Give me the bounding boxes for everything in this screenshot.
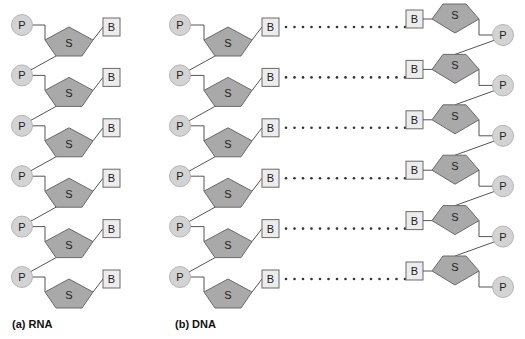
hydrogen-bond-dot (319, 177, 322, 180)
base-label: B (108, 122, 115, 134)
phosphate-sugar-bond (190, 75, 204, 90)
sugar-base-bond (93, 229, 103, 242)
base-label: B (108, 21, 115, 33)
hydrogen-bond-dot (302, 227, 305, 230)
hydrogen-bond-dot (387, 177, 390, 180)
phosphate-sugar-bond (190, 176, 204, 191)
base-label: B (411, 164, 418, 176)
hydrogen-bond-dot (344, 278, 347, 281)
sugar-phosphate-backbone (455, 40, 495, 54)
hydrogen-bond-dot (336, 76, 339, 79)
hydrogen-bond-dot (378, 26, 381, 29)
hydrogen-bond-dot (319, 26, 322, 29)
hydrogen-bond-dot (361, 278, 364, 281)
phosphate-label: P (18, 170, 25, 182)
hydrogen-bond-dot (370, 76, 373, 79)
hydrogen-bond-dot (395, 177, 398, 180)
sugar-label: S (451, 9, 458, 21)
sugar-label: S (65, 239, 72, 251)
phosphate-label: P (176, 120, 183, 132)
hydrogen-bond-dot (285, 76, 288, 79)
hydrogen-bond-dot (395, 227, 398, 230)
hydrogen-bond-dot (327, 76, 330, 79)
base-label: B (411, 63, 418, 75)
hydrogen-bond-dot (361, 76, 364, 79)
base-label: B (108, 172, 115, 184)
sugar-phosphate-backbone (30, 207, 56, 221)
sugar-label: S (451, 59, 458, 71)
sugar-base-bond (252, 77, 262, 90)
caption-dna: (b) DNA (175, 318, 216, 330)
sugar-label: S (224, 37, 231, 49)
hydrogen-bond-dot (319, 76, 322, 79)
phosphate-sugar-bond (479, 221, 493, 237)
sugar-base-bond (252, 279, 262, 292)
sugar-label: S (65, 87, 72, 99)
hydrogen-bond-dot (361, 227, 364, 230)
hydrogen-bond-dot (336, 26, 339, 29)
hydrogen-bond-dot (285, 127, 288, 130)
sugar-label: S (451, 261, 458, 273)
sugar-base-bond (252, 27, 262, 40)
base-label: B (108, 71, 115, 83)
sugar-phosphate-backbone (30, 258, 56, 272)
hydrogen-bond-dot (285, 177, 288, 180)
hydrogen-bond-dot (395, 26, 398, 29)
hydrogen-bond-dot (344, 26, 347, 29)
hydrogen-bond-dot (353, 227, 356, 230)
sugar-phosphate-backbone (455, 191, 495, 205)
phosphate-label: P (18, 120, 25, 132)
base-label: B (267, 273, 274, 285)
hydrogen-bond-dot (302, 76, 305, 79)
hydrogen-bond-dot (361, 26, 364, 29)
sugar-phosphate-backbone (30, 106, 56, 120)
phosphate-sugar-bond (32, 227, 45, 242)
hydrogen-bond-dot (378, 177, 381, 180)
hydrogen-bond-dot (310, 76, 313, 79)
hydrogen-bond-dot (327, 127, 330, 130)
phosphate-label: P (499, 231, 506, 243)
phosphate-label: P (499, 130, 506, 142)
hydrogen-bond-dot (336, 227, 339, 230)
hydrogen-bond-dot (370, 177, 373, 180)
sugar-base-bond (93, 128, 103, 141)
sugar-label: S (65, 188, 72, 200)
hydrogen-bond-dot (370, 127, 373, 130)
sugar-label: S (224, 239, 231, 251)
sugar-label: S (451, 160, 458, 172)
phosphate-label: P (18, 69, 25, 81)
hydrogen-bond-dot (285, 227, 288, 230)
sugar-phosphate-backbone (30, 56, 56, 70)
phosphate-label: P (176, 19, 183, 31)
sugar-phosphate-backbone (189, 56, 215, 70)
hydrogen-bond-dot (319, 278, 322, 281)
phosphate-sugar-bond (190, 25, 204, 40)
hydrogen-bond-dot (353, 76, 356, 79)
base-label: B (267, 21, 274, 33)
phosphate-label: P (499, 79, 506, 91)
sugar-base-bond (252, 178, 262, 191)
sugar-base-bond (93, 77, 103, 90)
sugar-base-bond (252, 128, 262, 141)
hydrogen-bond-dot (395, 278, 398, 281)
sugar-base-bond (93, 27, 103, 40)
hydrogen-bond-dot (387, 278, 390, 281)
hydrogen-bond-dot (336, 177, 339, 180)
hydrogen-bond-dot (344, 177, 347, 180)
hydrogen-bond-dot (387, 127, 390, 130)
base-label: B (267, 71, 274, 83)
sugar-phosphate-backbone (455, 242, 495, 256)
hydrogen-bond-dot (395, 127, 398, 130)
sugar-label: S (224, 138, 231, 150)
hydrogen-bond-dot (327, 26, 330, 29)
hydrogen-bond-dot (310, 127, 313, 130)
phosphate-sugar-bond (479, 69, 493, 85)
hydrogen-bond-dot (336, 127, 339, 130)
hydrogen-bond-dot (361, 177, 364, 180)
sugar-label: S (65, 289, 72, 301)
base-label: B (411, 265, 418, 277)
hydrogen-bond-dot (293, 26, 296, 29)
hydrogen-bond-dot (319, 127, 322, 130)
hydrogen-bond-dot (310, 177, 313, 180)
sugar-phosphate-backbone (189, 258, 215, 272)
